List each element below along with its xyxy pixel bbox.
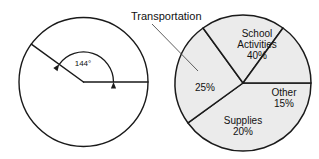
transportation-callout-label: Transportation	[131, 10, 202, 22]
pie-label-line: 25%	[195, 82, 215, 93]
pie-chart: SchoolActivities40%25%Supplies20%Other15…	[175, 15, 311, 151]
pie-label-line: 20%	[233, 125, 253, 136]
pie-label-line: Supplies	[224, 114, 262, 125]
pie-label-line: 15%	[274, 97, 294, 108]
pie-slice-label-transportation: 25%	[195, 82, 215, 93]
central-angle-diagram: 144°	[19, 18, 148, 147]
pie-label-line: Activities	[237, 39, 276, 50]
pie-label-line: 40%	[247, 50, 267, 61]
pie-label-line: School	[242, 28, 273, 39]
angle-measure-label: 144°	[75, 59, 92, 68]
figure-canvas: 144° SchoolActivities40%25%Supplies20%Ot…	[0, 0, 319, 159]
pie-label-line: Other	[271, 86, 297, 97]
pie-slice-label-other: Other15%	[271, 86, 297, 108]
figure-container: 144° SchoolActivities40%25%Supplies20%Ot…	[0, 0, 319, 159]
